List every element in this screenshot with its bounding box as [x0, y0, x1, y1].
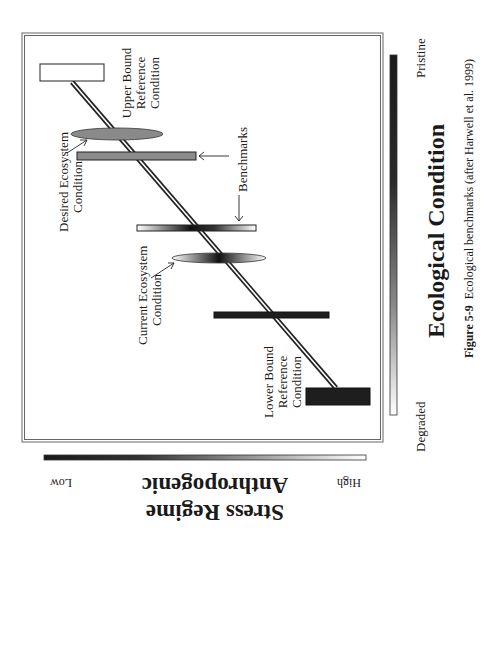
- desired-line1: Desired Ecosystem: [57, 142, 71, 232]
- arrow-benchmarks-2: [235, 195, 243, 221]
- current-condition-ellipse: [172, 253, 266, 263]
- figure-caption-text: Ecological benchmarks (after Harwell et …: [462, 59, 476, 299]
- current-line1: Current Ecosystem: [136, 255, 150, 345]
- upper-bound-line2: Reference: [134, 43, 148, 123]
- lower-bound-line3: Condition: [290, 342, 304, 422]
- upper-bound-line1: Upper Bound: [120, 43, 134, 123]
- desired-line2: Condition: [71, 142, 85, 232]
- upper-bound-box: [40, 64, 104, 81]
- stress-title-line1: Anthropogenic: [140, 472, 290, 499]
- stress-regime-bar: [44, 455, 366, 460]
- lower-bound-line1: Lower Bound: [262, 342, 276, 422]
- diagram-canvas: [0, 0, 487, 664]
- stress-low-label: Low: [46, 475, 76, 490]
- lower-bound-box: [306, 388, 370, 405]
- benchmarks-text-1: Benchmarks: [236, 132, 250, 192]
- stress-high-label: High: [331, 475, 367, 490]
- upper-bound-line3: Condition: [148, 43, 162, 123]
- figure-number: Figure 5-9: [462, 305, 476, 358]
- current-condition-label: Current Ecosystem Condition: [136, 255, 164, 345]
- benchmarks-label-1: Benchmarks: [236, 132, 250, 192]
- benchmark-bar-1: [77, 152, 196, 160]
- lower-bound-label: Lower Bound Reference Condition: [262, 342, 304, 422]
- degraded-label: Degraded: [413, 401, 429, 452]
- current-line2: Condition: [150, 255, 164, 345]
- ecological-condition-bar: [390, 55, 397, 415]
- ecological-condition-title: Ecological Condition: [421, 124, 451, 338]
- benchmark-bar-3: [214, 312, 329, 318]
- pristine-label: Pristine: [413, 38, 429, 78]
- arrow-benchmarks-1: [199, 152, 229, 160]
- desired-condition-label: Desired Ecosystem Condition: [57, 142, 85, 232]
- figure-caption: Figure 5-9 Ecological benchmarks (after …: [461, 59, 477, 358]
- upper-bound-label: Upper Bound Reference Condition: [120, 43, 162, 123]
- stress-title-line2: Stress Regime: [140, 499, 290, 526]
- lower-bound-line2: Reference: [276, 342, 290, 422]
- benchmark-bar-2: [137, 225, 256, 231]
- desired-condition-ellipse: [71, 128, 163, 140]
- stress-regime-title: Stress Regime Anthropogenic: [140, 472, 290, 526]
